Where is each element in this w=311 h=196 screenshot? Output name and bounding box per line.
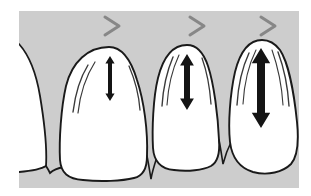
dental-illustration-figure: [0, 0, 311, 196]
illustration-canvas: [0, 0, 311, 196]
